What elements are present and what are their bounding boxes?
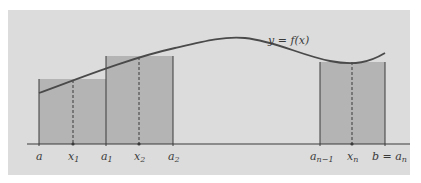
sample-point-x1: [71, 142, 74, 145]
sample-point-x2: [137, 142, 140, 145]
riemann-sum-diagram: y = f(x) a x1 a1 x2 a2 an−1 xn b = an: [0, 0, 421, 183]
sample-point-xn: [350, 142, 353, 145]
curve-label: y = f(x): [267, 34, 309, 47]
axis-label-b: b = an: [372, 150, 407, 164]
axis-label-a: a: [36, 150, 43, 163]
